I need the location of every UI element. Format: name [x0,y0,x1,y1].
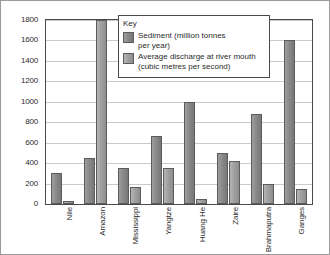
legend-swatch-discharge-icon [123,53,134,64]
bar-sediment [51,173,62,204]
x-axis-tick-label: Nile [65,207,74,220]
bar-sediment [251,114,262,204]
y-axis-tick-label: 1000 [21,96,38,105]
legend-swatch-sediment-icon [123,32,134,43]
x-axis: NileAmazonMississippiYangtzeHuang HeZair… [45,205,313,255]
y-axis-tick-label: 0 [34,199,38,208]
legend-label-sediment-line1: Sediment (million tonnes [138,31,226,40]
bar-chart-figure: 020040060080010001200140016001800 NileAm… [0,0,330,255]
bar-discharge [63,201,74,204]
bar-discharge [296,189,307,204]
legend-label-sediment-line2: per year) [138,41,226,51]
y-axis-tick-label: 1600 [21,35,38,44]
y-axis-tick-label: 800 [25,117,38,126]
legend-label-discharge: Average discharge at river mouth (cubic … [138,52,256,71]
x-axis-tick-label: Yangtze [164,207,173,235]
x-axis-tick-label: Mississippi [131,207,140,245]
y-axis-tick-label: 200 [25,178,38,187]
x-axis-tick-label: Amazon [98,207,107,236]
x-axis-tick-label: Zaire [231,207,240,225]
legend-item-sediment: Sediment (million tonnes per year) [123,31,265,50]
legend-label-sediment: Sediment (million tonnes per year) [138,31,226,50]
bar-discharge [130,187,141,204]
bar-discharge [263,184,274,204]
bar-discharge [229,161,240,204]
legend-item-discharge: Average discharge at river mouth (cubic … [123,52,265,71]
y-axis-tick-label: 1400 [21,55,38,64]
y-axis-tick-label: 600 [25,137,38,146]
bar-discharge [196,199,207,204]
y-axis-tick-label: 1800 [21,15,38,24]
legend-label-discharge-line1: Average discharge at river mouth [138,52,256,61]
bar-sediment [151,136,162,204]
legend-label-discharge-line2: (cubic metres per second) [138,62,256,72]
bar-sediment [284,40,295,204]
y-axis: 020040060080010001200140016001800 [1,19,43,205]
chart-legend: Key Sediment (million tonnes per year) A… [118,15,270,78]
x-axis-tick-label: Brahmaputra [264,207,273,252]
y-axis-tick-label: 400 [25,158,38,167]
bar-discharge [96,20,107,204]
bar-sediment [84,158,95,204]
bar-sediment [184,102,195,204]
bar-sediment [217,153,228,204]
x-axis-tick-label: Huang He [198,207,207,242]
bar-discharge [163,168,174,204]
y-axis-tick-label: 1200 [21,76,38,85]
bar-sediment [118,168,129,204]
x-axis-tick-label: Ganges [297,207,306,234]
legend-title: Key [123,19,265,28]
